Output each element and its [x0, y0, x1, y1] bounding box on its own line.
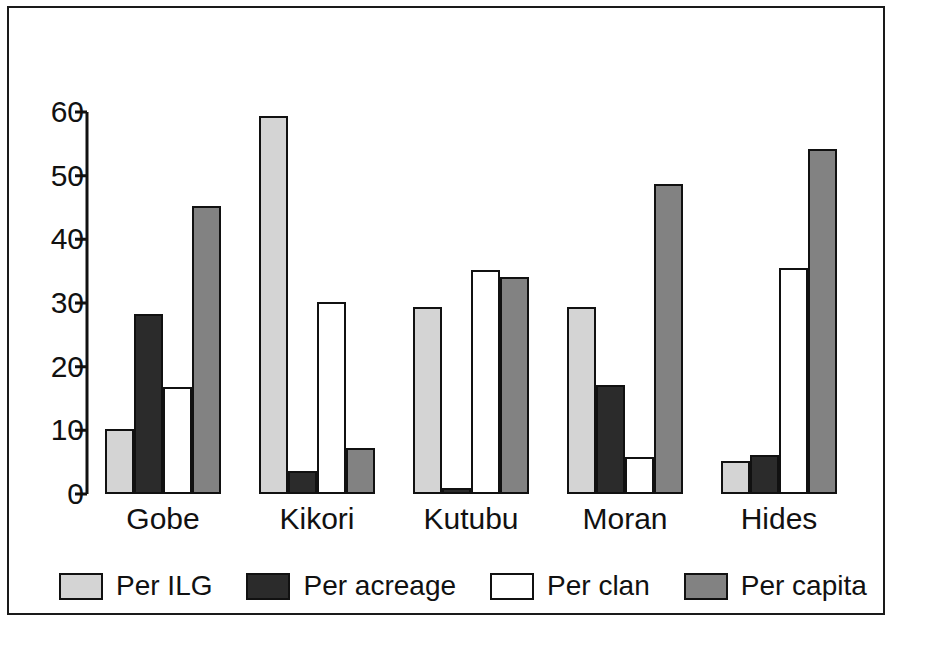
bar-group: Hides: [721, 112, 837, 494]
y-tick-label: 30: [51, 286, 84, 320]
y-tick-label: 40: [51, 222, 84, 256]
y-tick-label: 20: [51, 350, 84, 384]
legend-label: Per capita: [741, 570, 867, 602]
bar: [654, 184, 683, 494]
y-axis-tick-labels: 0102030405060: [9, 8, 84, 617]
bar: [134, 314, 163, 494]
bar: [750, 455, 779, 494]
x-category-label: Kikori: [259, 502, 375, 536]
x-category-label: Hides: [721, 502, 837, 536]
bar: [596, 385, 625, 494]
bar: [721, 461, 750, 494]
bar: [413, 307, 442, 494]
legend-item: Per clan: [490, 570, 650, 602]
bar: [288, 471, 317, 494]
bar-group: Kikori: [259, 112, 375, 494]
x-category-label: Gobe: [105, 502, 221, 536]
bar: [442, 488, 471, 494]
bar: [808, 149, 837, 494]
bar: [625, 457, 654, 494]
figure-frame: 0102030405060 GobeKikoriKutubuMoranHides…: [7, 6, 885, 615]
legend-swatch-icon: [490, 573, 534, 600]
bar-group: Gobe: [105, 112, 221, 494]
bar: [567, 307, 596, 494]
legend-swatch-icon: [246, 573, 290, 600]
x-category-label: Kutubu: [413, 502, 529, 536]
bar: [105, 429, 134, 494]
x-category-label: Moran: [567, 502, 683, 536]
legend-label: Per clan: [547, 570, 650, 602]
legend-label: Per ILG: [116, 570, 212, 602]
legend-item: Per acreage: [246, 570, 456, 602]
y-tick-label: 60: [51, 95, 84, 129]
y-tick-label: 10: [51, 413, 84, 447]
y-tick-label: 0: [67, 477, 84, 511]
bar: [471, 270, 500, 494]
bar: [192, 206, 221, 494]
bar: [779, 268, 808, 494]
y-tick-label: 50: [51, 159, 84, 193]
chart-plot-area: 0102030405060 GobeKikoriKutubuMoranHides: [9, 8, 887, 617]
bar: [317, 302, 346, 494]
bar: [259, 116, 288, 494]
bar: [346, 448, 375, 494]
bar-group: Kutubu: [413, 112, 529, 494]
bar-groups-container: GobeKikoriKutubuMoranHides: [95, 8, 865, 617]
chart-legend: Per ILGPer acreagePer clanPer capita: [59, 564, 849, 608]
bar: [500, 277, 529, 494]
legend-swatch-icon: [684, 573, 728, 600]
legend-label: Per acreage: [303, 570, 456, 602]
bar-group: Moran: [567, 112, 683, 494]
legend-item: Per ILG: [59, 570, 212, 602]
legend-swatch-icon: [59, 573, 103, 600]
legend-item: Per capita: [684, 570, 867, 602]
bar: [163, 387, 192, 494]
